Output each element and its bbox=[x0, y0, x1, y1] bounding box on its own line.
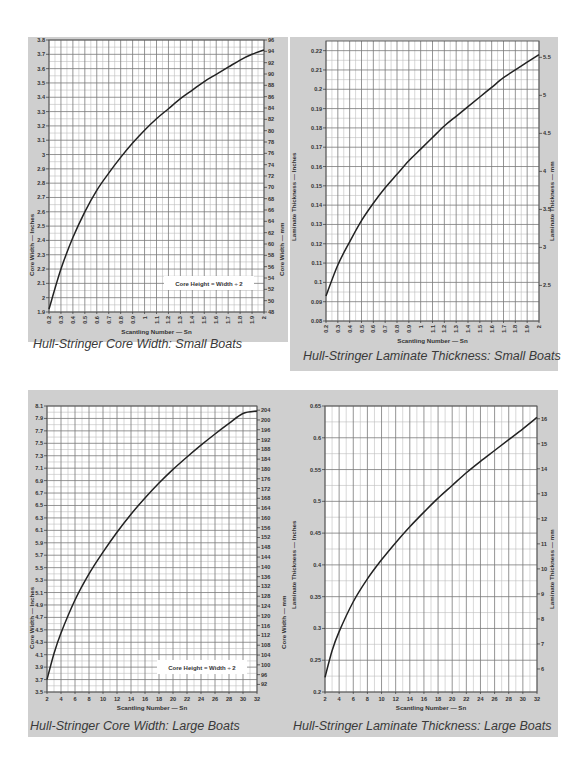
svg-text:14: 14 bbox=[541, 466, 548, 472]
svg-text:62: 62 bbox=[268, 230, 274, 236]
svg-text:96: 96 bbox=[268, 37, 274, 43]
svg-text:72: 72 bbox=[268, 173, 274, 179]
svg-text:18: 18 bbox=[435, 696, 441, 702]
svg-text:1.5: 1.5 bbox=[201, 316, 207, 324]
chart-panel-core-width-large: 3.53.73.94.14.34.54.74.95.15.35.55.75.96… bbox=[28, 390, 290, 737]
svg-text:0.2: 0.2 bbox=[46, 316, 52, 324]
chart-core-width-small: 1.922.12.22.32.42.52.62.72.82.933.13.23.… bbox=[28, 37, 288, 342]
x-axis-label: Scantling Number — Sn bbox=[396, 704, 467, 711]
svg-text:5.7: 5.7 bbox=[35, 552, 43, 558]
svg-text:4.5: 4.5 bbox=[543, 130, 551, 136]
svg-text:188: 188 bbox=[261, 446, 270, 452]
svg-text:10: 10 bbox=[378, 696, 384, 702]
svg-text:6.7: 6.7 bbox=[35, 490, 43, 496]
svg-text:50: 50 bbox=[268, 298, 274, 304]
svg-text:80: 80 bbox=[268, 128, 274, 134]
x-axis: 2468101214161820222426283032 bbox=[323, 692, 540, 702]
svg-text:54: 54 bbox=[268, 275, 275, 281]
svg-text:4.9: 4.9 bbox=[35, 602, 43, 608]
svg-text:8: 8 bbox=[541, 616, 544, 622]
chart-panel-laminate-large: 0.20.250.30.350.40.450.50.550.60.6567891… bbox=[290, 390, 558, 737]
svg-text:60: 60 bbox=[268, 241, 274, 247]
chart-caption: Hull-Stringer Laminate Thickness: Large … bbox=[293, 719, 551, 733]
svg-text:13: 13 bbox=[541, 491, 547, 497]
svg-text:124: 124 bbox=[261, 603, 271, 609]
svg-text:5.1: 5.1 bbox=[35, 590, 43, 596]
svg-text:0.15: 0.15 bbox=[311, 183, 322, 189]
svg-text:1.3: 1.3 bbox=[177, 316, 183, 324]
y2-axis-label: Core Width — mm bbox=[278, 222, 285, 276]
svg-text:152: 152 bbox=[261, 534, 270, 540]
svg-text:6: 6 bbox=[73, 696, 76, 702]
svg-text:6.3: 6.3 bbox=[35, 515, 43, 521]
svg-text:7.7: 7.7 bbox=[35, 428, 43, 434]
svg-text:32: 32 bbox=[254, 696, 260, 702]
svg-text:0.17: 0.17 bbox=[311, 144, 322, 150]
y-axis-right: 9296100104108112116120124128132136140144… bbox=[257, 407, 271, 687]
svg-text:20: 20 bbox=[449, 696, 455, 702]
svg-text:84: 84 bbox=[268, 105, 275, 111]
svg-text:1: 1 bbox=[142, 316, 148, 319]
svg-text:24: 24 bbox=[477, 696, 484, 702]
svg-text:5.5: 5.5 bbox=[35, 565, 43, 571]
svg-text:26: 26 bbox=[491, 696, 497, 702]
svg-text:12: 12 bbox=[393, 696, 399, 702]
svg-text:28: 28 bbox=[506, 696, 512, 702]
y-axis-label: Laminate Thickness — Inches bbox=[290, 520, 297, 609]
x-axis: 0.20.30.40.50.60.70.80.911.11.21.31.41.5… bbox=[323, 321, 542, 333]
y-axis-right: 4850525456586062646668707274767880828486… bbox=[264, 37, 275, 315]
svg-text:0.3: 0.3 bbox=[58, 316, 64, 324]
svg-text:16: 16 bbox=[541, 416, 547, 422]
svg-text:0.2: 0.2 bbox=[313, 689, 321, 695]
svg-text:88: 88 bbox=[268, 82, 274, 88]
chart-panel-core-width-small: 1.922.12.22.32.42.52.62.72.82.933.13.23.… bbox=[28, 37, 288, 342]
x-axis-label: Scantling Number — Sn bbox=[117, 704, 188, 711]
svg-text:4: 4 bbox=[59, 696, 63, 702]
svg-text:14: 14 bbox=[128, 696, 135, 702]
chart-core-width-large: 3.53.73.94.14.34.54.74.95.15.35.55.75.96… bbox=[28, 390, 290, 737]
svg-text:0.55: 0.55 bbox=[310, 467, 321, 473]
svg-text:1.8: 1.8 bbox=[237, 316, 243, 324]
svg-text:20: 20 bbox=[170, 696, 176, 702]
svg-text:3.6: 3.6 bbox=[37, 66, 45, 72]
svg-text:120: 120 bbox=[261, 613, 270, 619]
svg-text:0.4: 0.4 bbox=[347, 324, 353, 333]
svg-text:22: 22 bbox=[184, 696, 190, 702]
y-axis-left: 1.922.12.22.32.42.52.62.72.82.933.13.23.… bbox=[37, 37, 49, 315]
svg-text:4.1: 4.1 bbox=[35, 652, 43, 658]
svg-text:116: 116 bbox=[261, 623, 270, 629]
svg-text:1.8: 1.8 bbox=[512, 325, 518, 333]
svg-text:1.9: 1.9 bbox=[249, 316, 255, 324]
svg-text:86: 86 bbox=[268, 94, 274, 100]
svg-text:0.25: 0.25 bbox=[310, 657, 321, 663]
svg-text:0.1: 0.1 bbox=[314, 279, 322, 285]
svg-text:1.1: 1.1 bbox=[154, 316, 160, 324]
svg-text:0.2: 0.2 bbox=[323, 325, 329, 333]
svg-text:0.4: 0.4 bbox=[70, 315, 76, 324]
svg-text:92: 92 bbox=[268, 60, 274, 66]
svg-text:5.5: 5.5 bbox=[543, 54, 551, 60]
svg-text:104: 104 bbox=[261, 652, 271, 658]
svg-text:100: 100 bbox=[261, 662, 270, 668]
svg-text:1.9: 1.9 bbox=[524, 325, 530, 333]
svg-text:1.2: 1.2 bbox=[441, 325, 447, 333]
svg-text:0.7: 0.7 bbox=[382, 325, 388, 333]
svg-text:0.13: 0.13 bbox=[311, 221, 322, 227]
svg-text:11: 11 bbox=[541, 541, 547, 547]
svg-text:160: 160 bbox=[261, 515, 270, 521]
svg-text:1: 1 bbox=[418, 325, 424, 328]
svg-text:3.2: 3.2 bbox=[37, 123, 45, 129]
svg-text:3.5: 3.5 bbox=[37, 80, 45, 86]
svg-text:3: 3 bbox=[42, 152, 45, 158]
y-axis-left: 0.080.090.10.110.120.130.140.150.160.170… bbox=[311, 48, 326, 324]
svg-text:6.1: 6.1 bbox=[35, 527, 43, 533]
svg-text:0.3: 0.3 bbox=[335, 325, 341, 333]
svg-text:136: 136 bbox=[261, 574, 270, 580]
svg-text:78: 78 bbox=[268, 139, 274, 145]
svg-text:2: 2 bbox=[536, 325, 542, 328]
svg-text:58: 58 bbox=[268, 252, 274, 258]
chart-caption: Hull-Stringer Laminate Thickness: Small … bbox=[303, 349, 561, 363]
svg-text:30: 30 bbox=[520, 696, 526, 702]
y-axis-label: Laminate Thickness — Inches bbox=[290, 152, 297, 241]
svg-text:18: 18 bbox=[156, 696, 162, 702]
